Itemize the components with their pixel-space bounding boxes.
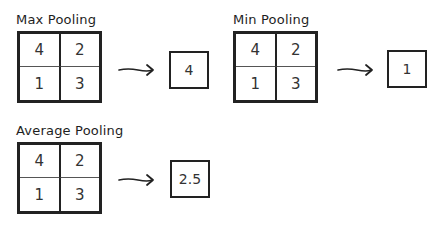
average-pooling-result: 2.5	[170, 160, 210, 198]
min-pooling-input-grid: 4 2 1 3	[233, 31, 318, 103]
grid-cell: 1	[20, 67, 60, 100]
arrow-right-icon	[118, 63, 156, 77]
min-pooling-title: Min Pooling	[233, 12, 309, 27]
grid-cell: 4	[20, 145, 60, 178]
grid-cell: 1	[236, 67, 276, 100]
grid-cell: 2	[60, 145, 100, 178]
min-pooling-result: 1	[387, 50, 427, 88]
average-pooling-input-grid: 4 2 1 3	[17, 142, 102, 214]
grid-cell: 4	[236, 34, 276, 67]
max-pooling-title: Max Pooling	[16, 12, 96, 27]
grid-cell: 3	[60, 67, 100, 100]
grid-cell: 2	[276, 34, 316, 67]
grid-cell: 3	[276, 67, 316, 100]
grid-cell: 2	[60, 34, 100, 67]
arrow-right-icon	[118, 173, 156, 187]
arrow-right-icon	[337, 63, 375, 77]
average-pooling-title: Average Pooling	[16, 123, 124, 138]
grid-cell: 3	[60, 178, 100, 211]
grid-cell: 4	[20, 34, 60, 67]
grid-cell: 1	[20, 178, 60, 211]
max-pooling-input-grid: 4 2 1 3	[17, 31, 102, 103]
max-pooling-result: 4	[169, 51, 209, 89]
